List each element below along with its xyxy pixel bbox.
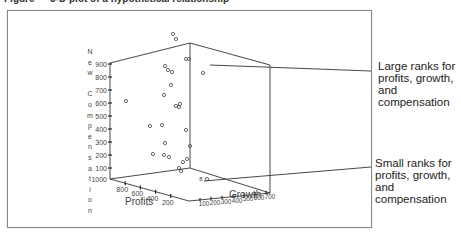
data-point xyxy=(170,70,173,73)
z-axis-label-letter: n xyxy=(86,142,94,153)
tick-labels: 9008007006005004003002001001000800600400… xyxy=(91,61,275,208)
z-tick-label: 900 xyxy=(95,61,107,68)
callout-line-small xyxy=(204,167,371,181)
growth-tick-label: 200 xyxy=(210,199,221,206)
z-axis-label-letter: e xyxy=(86,58,94,69)
data-point xyxy=(177,105,180,108)
z-axis-label-letter: o xyxy=(86,100,94,111)
z-axis-label-letter: s xyxy=(86,153,94,164)
data-point xyxy=(124,99,127,102)
data-point xyxy=(169,83,172,86)
callout-small-line-4: compensation xyxy=(375,193,452,205)
callout-small-line-2: profits, growth, xyxy=(375,169,452,181)
z-axis-label: New Compensation xyxy=(86,47,94,217)
z-axis-label-letter: o xyxy=(86,195,94,206)
z-tick-label: 600 xyxy=(95,100,107,107)
z-axis-label-letter: m xyxy=(86,111,94,122)
z-axis-label-letter: C xyxy=(86,89,94,100)
data-point xyxy=(163,141,166,144)
growth-tick-label: 700 xyxy=(265,193,276,200)
callout-large-line-1: Large ranks for xyxy=(378,60,455,72)
callout-large-line-2: profits, growth, xyxy=(378,72,455,84)
data-points xyxy=(124,32,208,180)
data-point xyxy=(184,128,187,131)
z-axis-label-letter: t xyxy=(86,174,94,185)
z-axis-label-letter: N xyxy=(86,47,94,58)
growth-tick-label: 100 xyxy=(199,200,210,207)
z-tick-label: 500 xyxy=(95,113,107,120)
z-axis-label-letter: e xyxy=(86,132,94,143)
callout-large-line-4: compensation xyxy=(378,96,455,108)
data-point xyxy=(174,37,177,40)
z-axis-label-letter: p xyxy=(86,121,94,132)
z-axis-label-letter: n xyxy=(86,206,94,217)
z-axis-label-letter: i xyxy=(86,185,94,196)
callout-large-ranks: Large ranks for profits, growth, and com… xyxy=(378,60,455,108)
callout-small-line-1: Small ranks for xyxy=(375,157,452,169)
callout-large-line-3: and xyxy=(378,84,455,96)
data-point xyxy=(205,177,208,180)
x-axis-label-profits: Profits xyxy=(125,196,153,207)
profits-tick-label: 200 xyxy=(162,199,174,206)
z-tick-label: 800 xyxy=(95,74,107,81)
z-axis-label-letter: w xyxy=(86,68,94,79)
data-point xyxy=(151,152,154,155)
data-point xyxy=(148,124,151,127)
callout-small-line-3: and xyxy=(375,181,452,193)
data-point xyxy=(167,155,170,158)
data-point xyxy=(181,160,184,163)
data-point xyxy=(162,153,165,156)
data-point xyxy=(171,32,174,35)
z-tick-label: 300 xyxy=(95,139,107,146)
y-axis-label-growth: Growth xyxy=(229,189,261,200)
profits-tick-label: 800 xyxy=(116,186,128,193)
z-tick-label: 200 xyxy=(95,152,107,159)
data-point xyxy=(163,64,166,67)
stray-mark: 8 xyxy=(199,176,203,182)
z-tick-label: 100 xyxy=(95,165,107,172)
data-point xyxy=(185,157,188,160)
z-tick-label: 400 xyxy=(95,126,107,133)
callout-line-large xyxy=(210,65,371,71)
callout-small-ranks: Small ranks for profits, growth, and com… xyxy=(375,157,452,205)
data-point xyxy=(162,93,165,96)
axis-ticks xyxy=(108,64,266,201)
z-axis-label-letter: a xyxy=(86,164,94,175)
z-axis-label-letter xyxy=(86,79,94,90)
data-point xyxy=(179,169,182,172)
data-point xyxy=(166,68,169,71)
z-tick-label: 700 xyxy=(95,87,107,94)
data-point xyxy=(201,71,204,74)
data-point xyxy=(160,123,163,126)
